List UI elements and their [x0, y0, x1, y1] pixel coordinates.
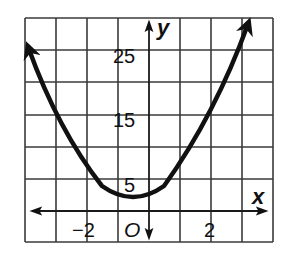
x-tick-label-neg2: −2: [72, 219, 95, 241]
y-tick-label-25: 25: [113, 45, 135, 67]
y-tick-label-15: 15: [113, 109, 135, 131]
parabola-graph: 25 15 5 −2 2 O x y: [0, 0, 286, 253]
x-tick-label-2: 2: [204, 219, 215, 241]
y-tick-label-5: 5: [124, 174, 135, 196]
y-axis-label: y: [156, 15, 171, 40]
origin-label: O: [124, 218, 140, 241]
x-axis-label: x: [251, 184, 265, 209]
